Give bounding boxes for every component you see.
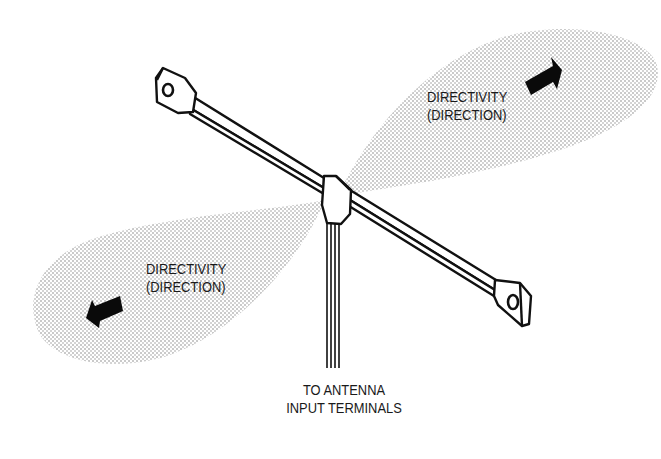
lower-lobe-label: DIRECTIVITY (DIRECTION) [146,260,226,296]
lower-lobe-label-line2: (DIRECTION) [146,278,226,296]
dipole-element-left [156,68,324,194]
lead-in-label: TO ANTENNA INPUT TERMINALS [275,381,413,417]
lead-in-wires [327,222,339,368]
lead-in-label-line1: TO ANTENNA [275,381,413,399]
lead-in-label-line2: INPUT TERMINALS [275,399,413,417]
dipole-element-right [349,190,531,326]
upper-lobe-label-line2: (DIRECTION) [427,106,507,124]
upper-lobe-label-line1: DIRECTIVITY [427,88,507,106]
lower-lobe-label-line1: DIRECTIVITY [146,260,226,278]
upper-lobe-label: DIRECTIVITY (DIRECTION) [427,88,507,124]
